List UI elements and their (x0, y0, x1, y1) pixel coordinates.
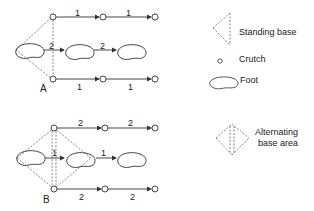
step-label-b-top-1: 2 (78, 118, 83, 128)
step-label-b-mid-2: 1 (101, 148, 106, 158)
step-label-a-top-1: 1 (75, 8, 80, 18)
panel-b-label: B (43, 194, 50, 205)
step-label-b-bot-1: 2 (79, 192, 84, 202)
standing-base-triangle-a (16, 17, 53, 79)
step-label-a-top-2: 1 (126, 8, 131, 18)
legend-alternating-label-2: base area (258, 138, 298, 148)
step-label-a-bot-1: 1 (77, 82, 82, 92)
panel-b (17, 125, 158, 192)
step-arrows-a (44, 17, 151, 79)
legend-foot-label: Foot (240, 75, 258, 85)
step-label-a-bot-2: 1 (128, 82, 133, 92)
legend-standing-base-icon (213, 13, 230, 45)
foot-icons-b (17, 151, 146, 168)
step-label-a-mid-1: 2 (49, 41, 54, 51)
alternating-base-diamond-b (17, 128, 91, 189)
panel-a (16, 14, 158, 82)
step-label-b-mid-1: 1 (52, 148, 57, 158)
step-label-b-top-2: 2 (128, 118, 133, 128)
legend-alternating-base-icon (216, 124, 249, 155)
step-label-b-bot-2: 2 (130, 192, 135, 202)
step-label-a-mid-2: 2 (100, 41, 105, 51)
panel-a-label: A (40, 83, 47, 94)
step-arrows-b (45, 128, 151, 189)
legend-foot-icon (210, 77, 238, 89)
foot-icons-a (16, 44, 146, 60)
legend-crutch-label: Crutch (239, 54, 266, 64)
legend-crutch-icon (218, 59, 222, 63)
legend-standing-base-label: Standing base (239, 27, 297, 37)
legend-alternating-label-1: Alternating (255, 127, 298, 137)
